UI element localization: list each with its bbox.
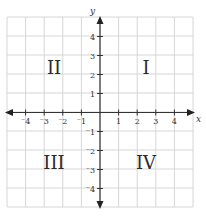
- x-axis-left-arrow-icon: [5, 109, 13, 116]
- x-tick-label: 2: [135, 117, 140, 126]
- y-tick-label: ⁻3: [86, 166, 95, 175]
- quadrant-label-II: II: [47, 57, 61, 78]
- x-tick-label: 3: [153, 117, 158, 126]
- x-axis-right-arrow-icon: [187, 109, 195, 116]
- y-tick-label: 1: [90, 90, 95, 99]
- y-tick-label: ⁻1: [86, 128, 95, 137]
- coordinate-plane: ⁻4⁻3⁻2⁻11234 4321⁻1⁻2⁻3⁻4 x y I II III I…: [0, 0, 206, 219]
- x-tick-label: ⁻2: [58, 117, 67, 126]
- y-axis-down-arrow-icon: [97, 201, 104, 209]
- x-tick-label: ⁻3: [40, 117, 49, 126]
- x-tick-label: 4: [172, 117, 177, 126]
- quadrant-label-I: I: [142, 57, 149, 78]
- y-axis-label: y: [89, 6, 96, 16]
- y-tick-label: ⁻4: [86, 185, 95, 194]
- y-tick-label: 2: [90, 71, 95, 80]
- axes: [5, 16, 195, 209]
- y-tick-label: ⁻2: [86, 147, 95, 156]
- x-axis-label: x: [196, 114, 201, 124]
- y-tick-label: 3: [90, 52, 95, 61]
- x-tick-label: 1: [116, 117, 121, 126]
- quadrant-label-IV: IV: [136, 152, 157, 173]
- y-tick-label: 4: [90, 33, 95, 42]
- quadrant-label-III: III: [43, 152, 64, 173]
- x-tick-label: ⁻4: [21, 117, 30, 126]
- x-tick-label: ⁻1: [77, 117, 86, 126]
